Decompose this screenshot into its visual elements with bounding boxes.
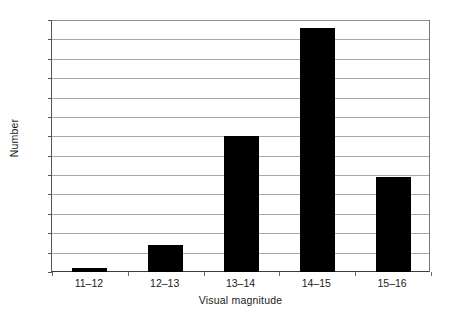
bar: [376, 177, 411, 272]
bar: [300, 28, 335, 272]
x-tick-label: 12–13: [127, 277, 203, 289]
gridline: [52, 39, 429, 40]
x-tick-label: 14–15: [278, 277, 354, 289]
bar: [148, 245, 183, 272]
y-tick-mark: [48, 78, 52, 79]
y-axis-title: Number: [8, 93, 20, 183]
y-tick-mark: [48, 175, 52, 176]
bar: [72, 268, 107, 272]
y-tick-mark: [48, 233, 52, 234]
x-tick-mark: [128, 272, 129, 276]
x-tick-mark: [279, 272, 280, 276]
x-tick-mark: [355, 272, 356, 276]
x-tick-mark: [431, 272, 432, 276]
y-tick-mark: [48, 136, 52, 137]
x-tick-label: 15–16: [354, 277, 430, 289]
x-tick-label: 13–14: [203, 277, 279, 289]
y-tick-mark: [48, 156, 52, 157]
x-tick-label: 11–12: [51, 277, 127, 289]
bar-chart-figure: Number 0102030405060708090100110120130 1…: [0, 0, 449, 318]
x-tick-mark: [52, 272, 53, 276]
x-axis-title: Visual magnitude: [51, 294, 430, 306]
gridline: [52, 20, 429, 21]
gridline: [52, 117, 429, 118]
y-tick-mark: [48, 20, 52, 21]
bar: [224, 136, 259, 272]
gridline: [52, 78, 429, 79]
y-tick-mark: [48, 98, 52, 99]
y-tick-mark: [48, 253, 52, 254]
gridline: [52, 59, 429, 60]
x-axis-tick-labels: 11–1212–1313–1414–1515–16: [51, 277, 430, 291]
plot-area: [51, 20, 430, 272]
y-tick-mark: [48, 39, 52, 40]
gridline: [52, 98, 429, 99]
y-tick-mark: [48, 117, 52, 118]
y-tick-mark: [48, 59, 52, 60]
x-tick-mark: [204, 272, 205, 276]
y-tick-mark: [48, 214, 52, 215]
y-tick-mark: [48, 194, 52, 195]
